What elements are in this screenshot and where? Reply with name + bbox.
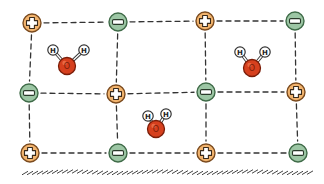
anion-minus-icon: [109, 13, 127, 31]
anion-minus-icon: [197, 83, 215, 101]
hatch-stroke: [272, 171, 278, 175]
cation-plus-icon: [23, 14, 41, 32]
svg-text:H: H: [145, 113, 151, 121]
horizontal-bond: [41, 93, 104, 94]
horizontal-bond: [44, 22, 106, 23]
cation-plus-icon: [197, 144, 215, 162]
cation-plus-icon: [196, 12, 214, 30]
svg-text:H: H: [262, 49, 268, 57]
anion-minus-icon: [20, 84, 38, 102]
ions-layer: [20, 12, 307, 162]
svg-text:H: H: [237, 49, 243, 57]
vertical-bond: [116, 106, 117, 141]
hatch-stroke: [167, 170, 173, 174]
water-molecule-icon: HHO: [143, 109, 171, 138]
cation-plus-icon: [287, 83, 305, 101]
vertical-bond: [205, 33, 206, 80]
hatch-stroke: [267, 170, 273, 174]
hatch-stroke: [257, 170, 263, 174]
hatch-stroke: [77, 170, 83, 174]
svg-text:O: O: [64, 62, 70, 71]
water-molecule-icon: HHO: [48, 45, 89, 75]
horizontal-bond: [128, 92, 194, 93]
vertical-bond: [296, 104, 297, 141]
hatch-stroke: [187, 171, 193, 175]
svg-text:H: H: [163, 111, 169, 119]
vertical-bond: [295, 33, 296, 80]
hatch-stroke: [82, 170, 88, 174]
hatch-stroke: [97, 171, 103, 175]
water-molecules-layer: HHOHHOHHO: [48, 45, 270, 138]
anion-minus-icon: [109, 144, 127, 162]
vertical-bond: [29, 105, 30, 141]
vertical-bond: [30, 35, 32, 81]
hatch-stroke: [92, 171, 98, 175]
cation-plus-icon: [21, 144, 39, 162]
hatch-stroke: [262, 170, 268, 174]
horizontal-bond: [130, 21, 193, 22]
hatch-stroke: [102, 171, 108, 175]
lattice-diagram: HHOHHOHHO: [0, 0, 324, 184]
hatch-stroke: [87, 170, 93, 174]
hatch-stroke: [282, 171, 288, 175]
svg-text:H: H: [50, 47, 56, 55]
hatch-stroke: [172, 170, 178, 174]
cation-plus-icon: [107, 85, 125, 103]
vertical-bond: [116, 34, 117, 82]
hatch-stroke: [277, 171, 283, 175]
anion-minus-icon: [286, 12, 304, 30]
hatch-stroke: [182, 171, 188, 175]
svg-text:O: O: [153, 125, 159, 134]
svg-text:O: O: [249, 64, 255, 73]
water-molecule-icon: HHO: [235, 47, 270, 77]
hatch-stroke: [177, 170, 183, 174]
hatch-stroke: [192, 171, 198, 175]
svg-text:H: H: [81, 47, 87, 55]
anion-minus-icon: [289, 144, 307, 162]
ground-hatching: [22, 170, 313, 175]
